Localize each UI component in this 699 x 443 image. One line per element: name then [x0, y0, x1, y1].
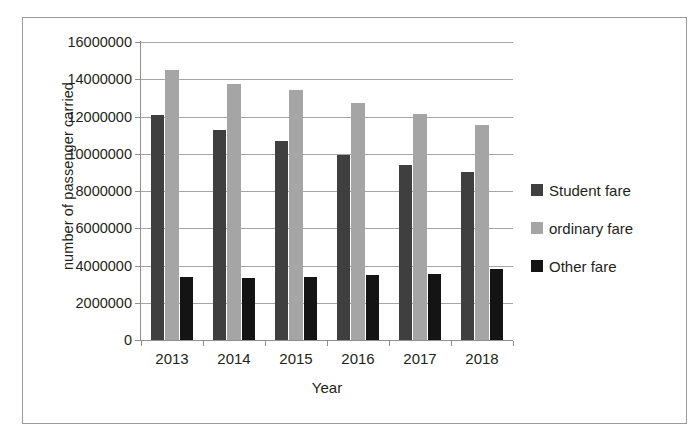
x-axis-tick-label: 2018 [465, 350, 498, 367]
bar-group [389, 42, 451, 340]
bar-group [327, 42, 389, 340]
bar-student-fare-2013[interactable] [151, 115, 165, 340]
x-axis-tick [265, 341, 266, 346]
x-axis-tick-label: 2013 [155, 350, 188, 367]
bar-other-fare-2018[interactable] [490, 269, 504, 340]
x-axis-tick [513, 341, 514, 346]
bar-ordinary-fare-2013[interactable] [165, 70, 179, 340]
bar-other-fare-2014[interactable] [242, 278, 256, 340]
y-axis-tick-label: 0 [124, 332, 132, 348]
y-axis-tick-label: 10000000 [67, 146, 132, 162]
chart-frame: number of passenger carried 020000004000… [22, 17, 687, 424]
bar-ordinary-fare-2014[interactable] [227, 84, 241, 340]
y-axis-tick-label: 14000000 [67, 71, 132, 87]
legend-item-ordinary-fare[interactable]: ordinary fare [531, 209, 681, 247]
legend: Student fareordinary fareOther fare [531, 171, 681, 285]
bar-group [203, 42, 265, 340]
bar-other-fare-2013[interactable] [180, 277, 194, 340]
bar-group [265, 42, 327, 340]
bar-other-fare-2016[interactable] [366, 275, 380, 340]
x-axis-tick-label: 2017 [403, 350, 436, 367]
x-axis-tick-label: 2014 [217, 350, 250, 367]
y-axis-tick-label: 16000000 [67, 34, 132, 50]
bar-ordinary-fare-2017[interactable] [413, 114, 427, 340]
legend-label: ordinary fare [549, 220, 633, 237]
y-axis-tick-label: 8000000 [76, 183, 132, 199]
x-axis-tick [203, 341, 204, 346]
x-axis-tick [451, 341, 452, 346]
legend-swatch-icon [531, 260, 543, 272]
x-axis-tick [389, 341, 390, 346]
y-axis-title: number of passenger carried [60, 61, 76, 291]
legend-item-student-fare[interactable]: Student fare [531, 171, 681, 209]
x-axis-title: Year [141, 379, 513, 396]
x-axis-tick-label: 2016 [341, 350, 374, 367]
y-axis-tick-label: 2000000 [76, 295, 132, 311]
bar-student-fare-2017[interactable] [399, 165, 413, 340]
y-axis-tick-label: 4000000 [76, 258, 132, 274]
x-axis-tick [327, 341, 328, 346]
bar-student-fare-2015[interactable] [275, 141, 289, 340]
legend-label: Other fare [549, 258, 617, 275]
plot-area: 0200000040000006000000800000010000000120… [141, 42, 513, 340]
bar-ordinary-fare-2016[interactable] [351, 103, 365, 340]
bar-student-fare-2014[interactable] [213, 130, 227, 340]
bar-other-fare-2015[interactable] [304, 277, 318, 340]
bar-group [141, 42, 203, 340]
x-axis-tick-label: 2015 [279, 350, 312, 367]
legend-swatch-icon [531, 222, 543, 234]
y-axis-tick-label: 6000000 [76, 220, 132, 236]
bar-student-fare-2016[interactable] [337, 155, 351, 340]
bar-other-fare-2017[interactable] [428, 274, 442, 340]
legend-label: Student fare [549, 182, 631, 199]
bar-ordinary-fare-2015[interactable] [289, 90, 303, 340]
bar-ordinary-fare-2018[interactable] [475, 125, 489, 340]
legend-swatch-icon [531, 184, 543, 196]
y-axis-tick-label: 12000000 [67, 109, 132, 125]
bar-student-fare-2018[interactable] [461, 172, 475, 340]
legend-item-other-fare[interactable]: Other fare [531, 247, 681, 285]
x-axis-tick [141, 341, 142, 346]
bar-group [451, 42, 513, 340]
